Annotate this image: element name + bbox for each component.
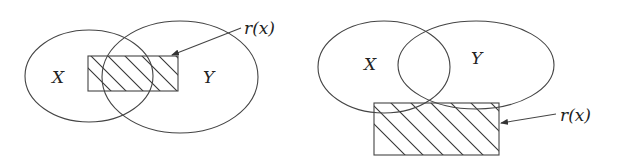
region-r-label: r(x) [244,18,275,38]
left-panel: X Y r(x) [25,18,275,133]
set-x-label: X [362,54,377,74]
arrow-icon [172,28,241,55]
set-y-label: Y [471,48,484,68]
set-x-ellipse [318,21,450,113]
set-y-label: Y [203,67,216,87]
arrow-icon [501,114,556,123]
left-region-r [60,40,220,100]
right-panel: X Y r(x) [318,21,591,160]
hatch-pattern [340,90,548,160]
right-region-r [340,90,548,160]
set-x-label: X [50,67,65,87]
venn-diagram-figure: X Y r(x) X Y r(x) [0,0,621,166]
set-x-ellipse [25,30,153,122]
region-r-label: r(x) [560,105,591,125]
